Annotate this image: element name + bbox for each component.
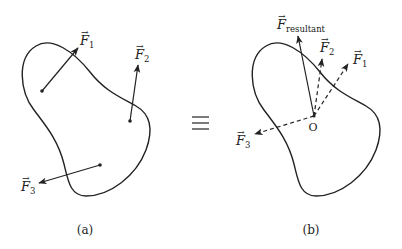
force-arrow-f3-b — [255, 116, 314, 134]
application-point-icon — [128, 119, 132, 123]
svg-text:→: → — [354, 46, 362, 56]
label-f3-b: F 3 → — [235, 127, 250, 150]
diagram-svg: F 1 → F 2 → F 3 → (a) — [0, 0, 402, 249]
force-equivalence-diagram: F 1 → F 2 → F 3 → (a) — [0, 0, 402, 249]
force-arrow-f1-a — [40, 48, 78, 93]
caption-b: (b) — [302, 223, 319, 237]
origin-point-icon — [312, 114, 315, 117]
svg-text:→: → — [136, 41, 144, 51]
svg-text:3: 3 — [30, 186, 35, 196]
label-f2-b: F 2 → — [319, 34, 334, 57]
label-f1-a: F 1 → — [79, 27, 94, 50]
application-point-icon — [98, 163, 102, 167]
svg-text:resultant: resultant — [286, 24, 326, 34]
caption-a: (a) — [77, 223, 94, 237]
label-f2-a: F 2 → — [134, 41, 149, 64]
force-arrow-f2-a — [128, 65, 138, 123]
svg-text:2: 2 — [144, 54, 149, 64]
panel-a: F 1 → F 2 → F 3 → (a) — [20, 27, 150, 237]
svg-text:1: 1 — [362, 59, 367, 69]
svg-text:→: → — [278, 11, 286, 21]
svg-text:→: → — [237, 127, 245, 137]
svg-text:3: 3 — [245, 140, 250, 150]
svg-text:→: → — [22, 173, 30, 183]
label-f3-a: F 3 → — [20, 173, 35, 196]
force-arrow-f3-a — [39, 163, 102, 183]
equivalence-icon — [192, 117, 209, 129]
svg-text:→: → — [321, 34, 329, 44]
label-f1-b: F 1 → — [352, 46, 367, 69]
label-resultant-b: F resultant → — [276, 11, 326, 34]
svg-text:1: 1 — [89, 40, 94, 50]
force-arrow-resultant-b — [298, 36, 314, 116]
application-point-icon — [40, 89, 44, 93]
force-arrow-f2-b — [314, 59, 322, 116]
origin-label: O — [308, 121, 317, 134]
svg-text:→: → — [81, 27, 89, 37]
panel-b: O F resultant → F 2 → F 1 → F 3 → (b) — [235, 11, 380, 237]
svg-text:2: 2 — [329, 47, 334, 57]
